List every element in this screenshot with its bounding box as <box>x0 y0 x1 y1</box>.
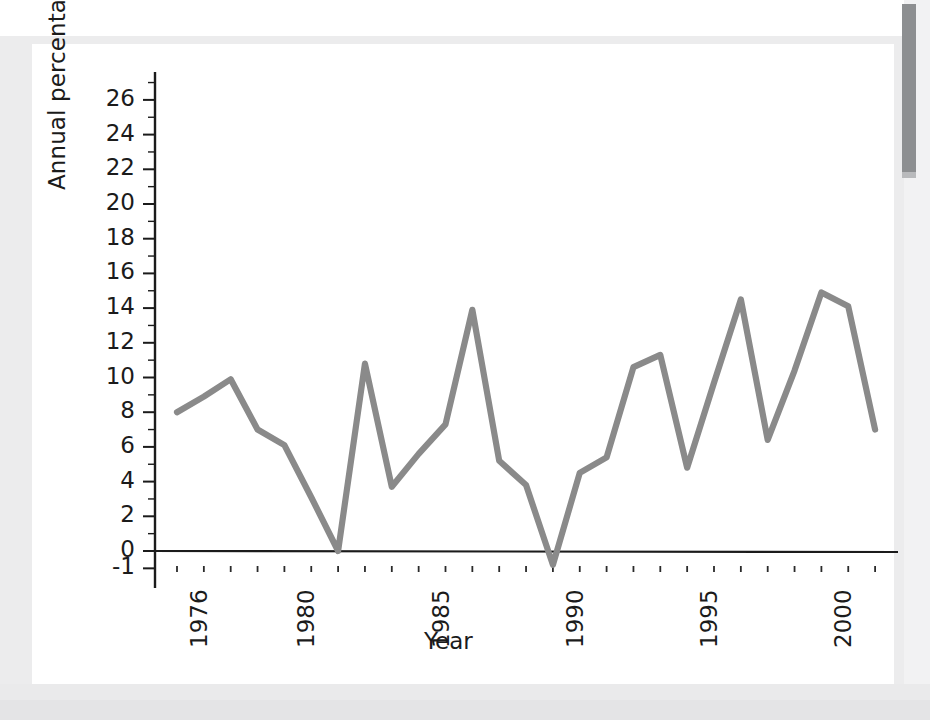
y-tick-label: 6 <box>91 432 135 458</box>
line-chart: Annual percentage change Year -102468101… <box>0 0 930 720</box>
y-axis-title: Annual percentage change <box>44 0 74 190</box>
y-tick-label: 8 <box>91 397 135 423</box>
x-axis-line <box>151 551 898 552</box>
x-tick-label: 1985 <box>428 589 454 648</box>
data-series-line <box>177 292 875 564</box>
y-tick-label: 2 <box>91 501 135 527</box>
y-tick-label: 20 <box>91 189 135 215</box>
x-tick-label: 1976 <box>186 589 212 648</box>
x-tick-label: 1980 <box>293 589 319 648</box>
y-tick-label: 4 <box>91 467 135 493</box>
y-tick-label: 10 <box>91 363 135 389</box>
y-tick-label: 18 <box>91 224 135 250</box>
x-tick-label: 1995 <box>696 589 722 648</box>
y-tick-label: 0 <box>91 536 135 562</box>
chart-canvas <box>0 0 930 720</box>
y-axis-ticks <box>143 83 155 569</box>
y-tick-label: 12 <box>91 328 135 354</box>
y-tick-label: 14 <box>91 293 135 319</box>
scanned-page: Annual percentage change Year -102468101… <box>0 0 930 720</box>
y-tick-label: 26 <box>91 85 135 111</box>
y-tick-label: 22 <box>91 154 135 180</box>
y-tick-label: 24 <box>91 120 135 146</box>
x-tick-label: 1990 <box>562 589 588 648</box>
x-axis-ticks <box>177 566 875 572</box>
x-tick-label: 2000 <box>830 589 856 648</box>
y-tick-label: 16 <box>91 258 135 284</box>
